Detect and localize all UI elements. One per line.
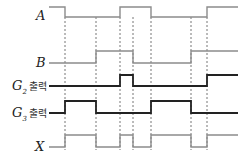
timing-diagram: A B G2출력 G3출력 X — [0, 0, 250, 164]
waveform-b — [49, 51, 238, 63]
waveform-a — [49, 7, 238, 17]
signal-label-g3-output: G3출력 — [12, 106, 47, 123]
signal-label-x: X — [35, 140, 44, 153]
signal-label-b: B — [36, 56, 46, 69]
waveform-g2 — [49, 75, 238, 86]
signal-label-a: A — [36, 9, 45, 22]
waveform-x — [49, 135, 238, 147]
signal-label-g2-output: G2출력 — [12, 79, 47, 96]
waveform-g3 — [49, 101, 238, 113]
